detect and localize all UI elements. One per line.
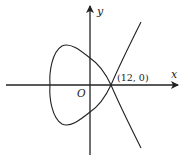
y-axis-label: y — [96, 5, 104, 18]
curve-lower-branch — [50, 85, 141, 148]
curve-plot: y x O (12, 0) — [0, 0, 185, 160]
origin-label: O — [77, 87, 86, 99]
x-axis-label: x — [171, 68, 178, 81]
intersection-point-label: (12, 0) — [117, 72, 149, 83]
diagram: y x O (12, 0) — [0, 0, 185, 160]
